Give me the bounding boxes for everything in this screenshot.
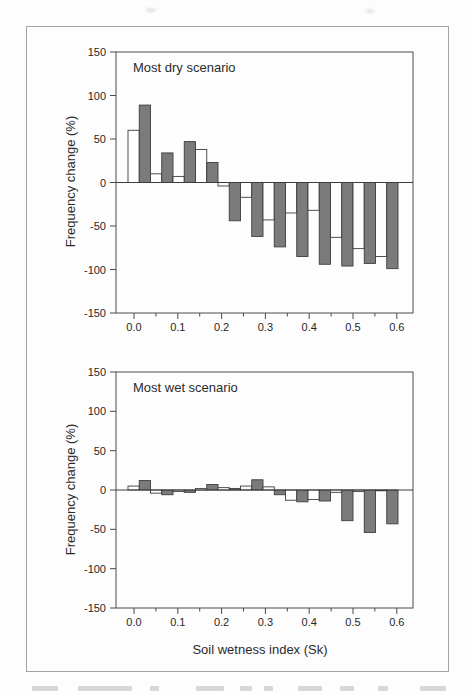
x-tick-label: 0.2 [214, 616, 229, 628]
x-axis-label: Soil wetness index (Sk) [110, 642, 410, 657]
x-tick-label: 0.0 [126, 616, 141, 628]
y-tick-label: 150 [88, 366, 106, 378]
bar-grey_bars-7 [297, 490, 308, 502]
bar-white_bars-6 [263, 183, 274, 220]
bar-grey_bars-0 [139, 481, 150, 490]
bar-grey_bars-8 [319, 490, 330, 501]
bar-white_bars-7 [286, 490, 297, 500]
chart-title-most-wet: Most wet scenario [133, 380, 238, 395]
x-tick-label: 0.3 [258, 321, 273, 333]
bar-white_bars-8 [308, 183, 319, 211]
y-tick-label: 100 [88, 90, 106, 102]
bar-grey_bars-2 [184, 142, 195, 183]
bar-grey_bars-1 [162, 153, 173, 183]
x-tick-label: 0.5 [345, 616, 360, 628]
bar-white_bars-5 [241, 183, 252, 198]
bar-white_bars-7 [286, 183, 297, 213]
bar-grey_bars-7 [297, 183, 308, 257]
scan-noise-speck [146, 8, 156, 12]
bar-grey_bars-10 [364, 183, 375, 264]
bar-grey_bars-6 [274, 490, 285, 495]
x-tick-label: 0.6 [389, 616, 404, 628]
y-tick-label: 50 [94, 445, 106, 457]
x-tick-label: 0.5 [345, 321, 360, 333]
y-axis-label-top: Frequency change (%) [63, 62, 78, 302]
y-tick-label: 50 [94, 133, 106, 145]
scan-noise-speck [366, 9, 374, 13]
bar-grey_bars-11 [387, 490, 398, 524]
bar-white_bars-10 [353, 183, 364, 249]
y-tick-label: -50 [90, 220, 106, 232]
x-tick-label: 0.1 [170, 616, 185, 628]
bar-white_bars-0 [128, 130, 139, 182]
bar-white_bars-1 [151, 174, 162, 183]
y-tick-label: -100 [84, 264, 106, 276]
bar-grey_bars-5 [252, 183, 263, 237]
bar-grey_bars-9 [342, 183, 353, 267]
y-tick-label: -100 [84, 563, 106, 575]
bar-white_bars-8 [308, 490, 319, 499]
bar-grey_bars-6 [274, 183, 285, 247]
y-tick-label: -150 [84, 602, 106, 614]
bar-grey_bars-4 [229, 183, 240, 221]
y-tick-label: -150 [84, 307, 106, 319]
bar-white_bars-4 [218, 183, 229, 186]
bar-grey_bars-3 [207, 162, 218, 182]
bar-grey_bars-1 [162, 490, 173, 495]
y-tick-label: -50 [90, 523, 106, 535]
x-tick-label: 0.2 [214, 321, 229, 333]
y-tick-label: 150 [88, 46, 106, 58]
bar-white_bars-0 [128, 486, 139, 490]
bar-grey_bars-11 [387, 183, 398, 269]
bar-white_bars-2 [173, 176, 184, 182]
bar-grey_bars-9 [342, 490, 353, 521]
bar-white_bars-11 [376, 183, 387, 257]
y-tick-label: 0 [100, 177, 106, 189]
bar-grey_bars-5 [252, 480, 263, 490]
bar-grey_bars-10 [364, 490, 375, 532]
y-axis-label-bottom: Frequency change (%) [63, 370, 78, 610]
bar-white_bars-9 [331, 183, 342, 238]
truncated-caption-remnant [0, 686, 473, 694]
bar-grey_bars-0 [139, 105, 150, 182]
bar-white_bars-5 [241, 486, 252, 490]
y-tick-label: 0 [100, 484, 106, 496]
x-tick-label: 0.4 [302, 616, 317, 628]
x-tick-label: 0.6 [389, 321, 404, 333]
x-tick-label: 0.0 [126, 321, 141, 333]
bar-grey_bars-3 [207, 484, 218, 490]
bar-white_bars-3 [196, 149, 207, 182]
bar-grey_bars-8 [319, 183, 330, 265]
x-tick-label: 0.1 [170, 321, 185, 333]
y-tick-label: 100 [88, 405, 106, 417]
x-tick-label: 0.3 [258, 616, 273, 628]
chart-title-most-dry: Most dry scenario [133, 60, 236, 75]
x-tick-label: 0.4 [302, 321, 317, 333]
